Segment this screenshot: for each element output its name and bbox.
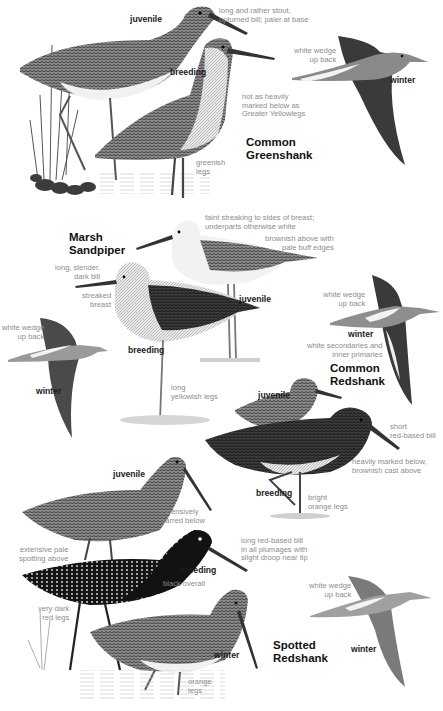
species-name-line: Sandpiper bbox=[69, 244, 125, 257]
marsh-streak-note: streaked breast bbox=[82, 292, 111, 309]
spotted-redshank-black-note: black overall bbox=[163, 580, 205, 589]
note-line: up back bbox=[294, 56, 336, 65]
spotted-redshank-dark-legs-note: very dark red legs bbox=[38, 605, 69, 622]
note-line: breast bbox=[82, 301, 111, 310]
note-line: yellowish legs bbox=[171, 393, 218, 402]
species-name-line: Common bbox=[330, 362, 385, 375]
note-line: upturned bill; paler at base bbox=[219, 16, 309, 25]
note-line: orange legs bbox=[308, 503, 348, 512]
greenshank-back-note: white wedge up back bbox=[294, 47, 336, 64]
spotted-redshank-barred-note: extensively barred below bbox=[161, 508, 205, 525]
note-line: underparts otherwise white bbox=[205, 223, 314, 232]
water bbox=[95, 172, 210, 194]
species-name-line: Common bbox=[246, 136, 312, 149]
note-line: spotting above bbox=[19, 555, 68, 564]
note-line: Greater Yellowlegs bbox=[242, 110, 305, 119]
marsh-above-note: brownish above with pale buff edges bbox=[265, 235, 334, 252]
greenshank-bill-note: long and rather stout, upturned bill; pa… bbox=[219, 7, 309, 24]
species-name-line: Spotted bbox=[273, 639, 328, 652]
note-line: slight droop near tip bbox=[241, 554, 308, 563]
marsh-sandpiper-breeding bbox=[75, 262, 260, 425]
spotted-redshank-group bbox=[22, 457, 432, 700]
note-line: legs bbox=[196, 168, 225, 177]
note-line: inner primaries bbox=[307, 351, 383, 360]
species-name-line: Redshank bbox=[330, 375, 385, 388]
note-line: barred below bbox=[161, 517, 205, 526]
marsh-winter-label: winter bbox=[36, 387, 61, 397]
spotted-redshank-winter-flight-label: winter bbox=[351, 645, 376, 655]
species-title-spotted-redshank: Spotted Redshank bbox=[273, 639, 328, 665]
common-redshank-below-note: heavily marked below, brownish cast abov… bbox=[352, 458, 427, 475]
species-title-greenshank: Common Greenshank bbox=[246, 136, 312, 162]
greenshank-below-note: not as heavily marked below as Greater Y… bbox=[242, 93, 305, 119]
greenshank-breeding-label: breeding bbox=[170, 68, 206, 78]
species-title-marsh-sandpiper: Marsh Sandpiper bbox=[69, 231, 125, 257]
marsh-back-note: white wedge up back bbox=[2, 324, 44, 341]
spotted-redshank-winter-label: winter bbox=[214, 651, 239, 661]
common-redshank-legs-note: bright orange legs bbox=[308, 494, 348, 511]
common-redshank-juvenile-label: juvenile bbox=[258, 391, 290, 401]
note-line: up back bbox=[2, 333, 44, 342]
common-redshank-breeding-label: breeding bbox=[256, 489, 292, 499]
species-name-line: Marsh bbox=[69, 231, 125, 244]
spotted-redshank-juvenile-label: juvenile bbox=[113, 470, 145, 480]
common-redshank-wing-note: white secondaries and inner primaries bbox=[307, 342, 383, 359]
common-redshank-bill-note: short red-based bill bbox=[390, 423, 436, 440]
marsh-bill-note: long, slender, dark bill bbox=[55, 264, 100, 281]
note-line: up back bbox=[323, 300, 365, 309]
note-line: red-based bill bbox=[390, 432, 436, 441]
marsh-juvenile-label: juvenile bbox=[239, 295, 271, 305]
marsh-legs-note: long yellowish legs bbox=[171, 384, 218, 401]
greenshank-legs-note: greenish legs bbox=[196, 159, 225, 176]
spotted-redshank-breeding-label: breeding bbox=[180, 566, 216, 576]
species-title-common-redshank: Common Redshank bbox=[330, 362, 385, 388]
species-name-line: Greenshank bbox=[246, 149, 312, 162]
marsh-breast-note: faint streaking to sides of breast; unde… bbox=[205, 214, 314, 231]
note-line: legs bbox=[188, 687, 212, 696]
note-line: up back bbox=[309, 591, 351, 600]
note-line: dark bill bbox=[55, 273, 100, 282]
spotted-redshank-orange-note: orange legs bbox=[188, 678, 212, 695]
spotted-redshank-winter bbox=[75, 590, 258, 700]
spotted-redshank-spot-note: extensive pale spotting above bbox=[19, 546, 68, 563]
spotted-redshank-back-note: white wedge up back bbox=[309, 582, 351, 599]
marsh-breeding-label: breeding bbox=[128, 346, 164, 356]
greenshank-winter-label: winter bbox=[390, 76, 415, 86]
species-name-line: Redshank bbox=[273, 652, 328, 665]
note-line: red legs bbox=[38, 614, 69, 623]
common-redshank-winter-label: winter bbox=[348, 330, 373, 340]
note-line: pale buff edges bbox=[265, 244, 334, 253]
greenshank-juvenile-label: juvenile bbox=[130, 15, 162, 25]
common-redshank-back-note: white wedge up back bbox=[323, 291, 365, 308]
spotted-redshank-bill-note: long red-based bill in all plumages with… bbox=[241, 537, 308, 563]
note-line: brownish cast above bbox=[352, 467, 427, 476]
